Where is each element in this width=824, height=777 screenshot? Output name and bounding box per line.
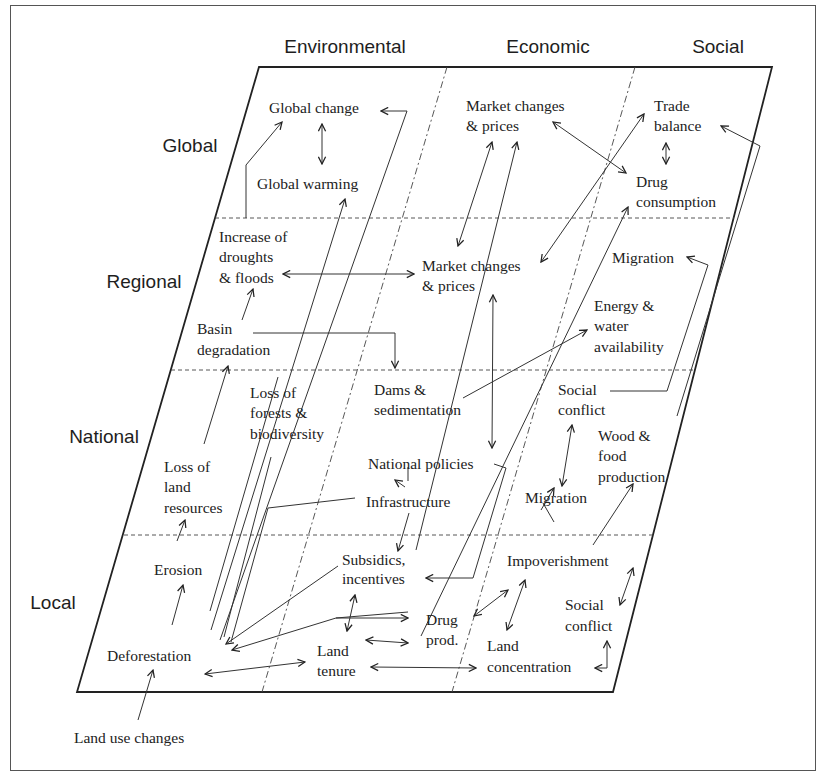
node-basin-degradation-2: degradation (197, 341, 270, 358)
row-header-national: National (69, 426, 139, 447)
nodes-local: Erosion Subsidics, incentives Impoverish… (74, 551, 613, 746)
node-wood-food: Wood & (598, 427, 651, 444)
column-header-environmental: Environmental (284, 36, 405, 57)
node-market-changes-global: Market changes (466, 97, 565, 114)
node-deforestation: Deforestation (107, 647, 192, 664)
node-national-policies: National policies (368, 455, 473, 472)
node-social-conflict-national: Social (558, 381, 597, 398)
node-drug-consumption-2: consumption (636, 193, 716, 210)
node-land-use-changes: Land use changes (74, 729, 184, 746)
node-droughts-floods-2: droughts (219, 248, 273, 265)
node-land-concentration: Land (487, 637, 519, 654)
node-energy-water-2: water (594, 317, 629, 334)
node-drug-production-2: prod. (426, 631, 458, 648)
node-basin-degradation: Basin (197, 320, 233, 337)
node-loss-forests: Loss of (250, 384, 297, 401)
node-global-change: Global change (269, 99, 359, 116)
node-trade-balance-2: balance (654, 117, 701, 134)
node-droughts-floods-3: & floods (219, 269, 274, 286)
row-header-global: Global (163, 135, 218, 156)
node-migration-regional: Migration (612, 249, 674, 266)
node-migration-national: Migration (525, 489, 587, 506)
node-wood-food-2: food (598, 447, 627, 464)
node-infrastructure: Infrastructure (366, 493, 450, 510)
node-dams-sedimentation: Dams & (374, 381, 426, 398)
node-subsidies-2: incentives (342, 570, 405, 587)
node-impoverishment: Impoverishment (507, 552, 609, 569)
node-market-changes-global-2: & prices (466, 117, 519, 134)
node-land-tenure-2: tenure (317, 662, 356, 679)
node-loss-land-resources-3: resources (164, 499, 223, 516)
node-energy-water: Energy & (594, 297, 654, 314)
row-header-regional: Regional (107, 271, 182, 292)
node-land-tenure: Land (317, 642, 349, 659)
node-drug-consumption: Drug (636, 173, 668, 190)
node-social-conflict-local-2: conflict (565, 617, 613, 634)
node-drug-production: Drug (426, 611, 458, 628)
column-header-economic: Economic (506, 36, 589, 57)
nodes-national: Loss of forests & biodiversity Dams & se… (164, 381, 665, 516)
node-social-conflict-national-2: conflict (558, 401, 606, 418)
node-land-concentration-2: concentration (487, 658, 572, 675)
column-header-social: Social (692, 36, 744, 57)
node-global-warming: Global warming (257, 175, 358, 192)
node-dams-sedimentation-2: sedimentation (374, 401, 461, 418)
row-header-local: Local (30, 592, 75, 613)
node-market-changes-regional-2: & prices (422, 277, 475, 294)
node-social-conflict-local: Social (565, 596, 604, 613)
node-loss-forests-3: biodiversity (250, 425, 324, 442)
node-subsidies: Subsidics, (342, 551, 405, 568)
node-trade-balance: Trade (654, 97, 690, 114)
node-energy-water-3: availability (594, 338, 664, 355)
node-loss-land-resources-2: land (164, 478, 191, 495)
grid-outline (77, 67, 772, 692)
nodes-global: Global change Global warming Market chan… (257, 97, 716, 210)
node-market-changes-regional: Market changes (422, 257, 521, 274)
node-loss-land-resources: Loss of (164, 458, 211, 475)
nodes-regional: Increase of droughts & floods Market cha… (197, 228, 674, 358)
diagram-canvas: Environmental Economic Social Global Reg… (0, 0, 824, 777)
node-wood-food-3: production (598, 468, 665, 485)
node-erosion: Erosion (154, 561, 202, 578)
node-loss-forests-2: forests & (250, 404, 307, 421)
node-droughts-floods: Increase of (219, 228, 288, 245)
